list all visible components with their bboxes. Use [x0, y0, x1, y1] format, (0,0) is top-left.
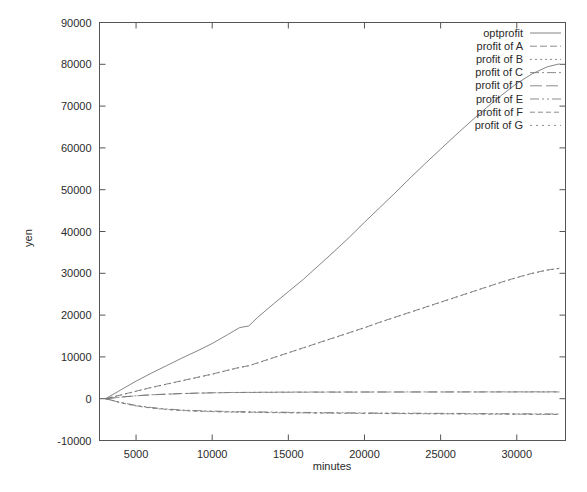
legend-label-optprofit: optprofit: [483, 27, 523, 39]
legend-label-profit-of-d: profit of D: [475, 79, 523, 91]
y-tick-label: 90000: [61, 17, 92, 29]
x-tick-label: 15000: [273, 448, 304, 460]
y-tick-label: 20000: [61, 309, 92, 321]
legend-label-profit-of-a: profit of A: [477, 40, 524, 52]
y-tick-label: 60000: [61, 142, 92, 154]
chart-container: -100000100002000030000400005000060000700…: [0, 0, 587, 492]
legend-label-profit-of-g: profit of G: [475, 119, 523, 131]
y-tick-label: 0: [85, 393, 91, 405]
y-tick-label: 50000: [61, 184, 92, 196]
x-tick-label: 5000: [124, 448, 148, 460]
y-tick-label: 30000: [61, 267, 92, 279]
x-axis-title: minutes: [313, 460, 352, 472]
y-tick-label: 80000: [61, 58, 92, 70]
x-tick-label: 25000: [425, 448, 456, 460]
y-tick-label: 40000: [61, 226, 92, 238]
legend-label-profit-of-f: profit of F: [477, 106, 524, 118]
x-tick-label: 10000: [197, 448, 228, 460]
x-tick-label: 30000: [501, 448, 532, 460]
y-tick-label: 10000: [61, 351, 92, 363]
profit-line-chart: -100000100002000030000400005000060000700…: [0, 0, 587, 492]
legend-label-profit-of-e: profit of E: [476, 93, 523, 105]
y-axis-title: yen: [22, 229, 34, 247]
x-tick-label: 20000: [349, 448, 380, 460]
y-tick-label: -10000: [57, 435, 91, 447]
legend-label-profit-of-b: profit of B: [476, 53, 523, 65]
legend-label-profit-of-c: profit of C: [475, 66, 523, 78]
y-tick-label: 70000: [61, 100, 92, 112]
